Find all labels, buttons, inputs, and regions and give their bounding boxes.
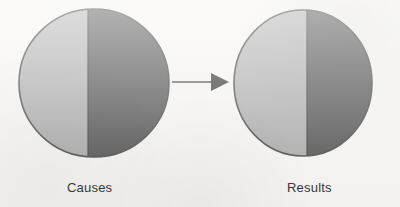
pie-causes-light-segment[interactable] <box>17 7 88 161</box>
pie-causes-label: Causes <box>67 181 112 194</box>
arrow-head <box>211 73 229 91</box>
right-arrow-icon <box>172 73 229 91</box>
pie-causes-dark-segment[interactable] <box>88 7 172 161</box>
pie-results[interactable] <box>233 7 375 161</box>
diagram-canvas: Causes Results <box>0 0 400 207</box>
pie-results-light-segment[interactable] <box>233 7 307 161</box>
pie-causes[interactable] <box>17 7 172 161</box>
causes-results-diagram <box>0 0 400 207</box>
pie-results-dark-segment[interactable] <box>307 7 375 161</box>
pie-results-label: Results <box>287 181 332 194</box>
